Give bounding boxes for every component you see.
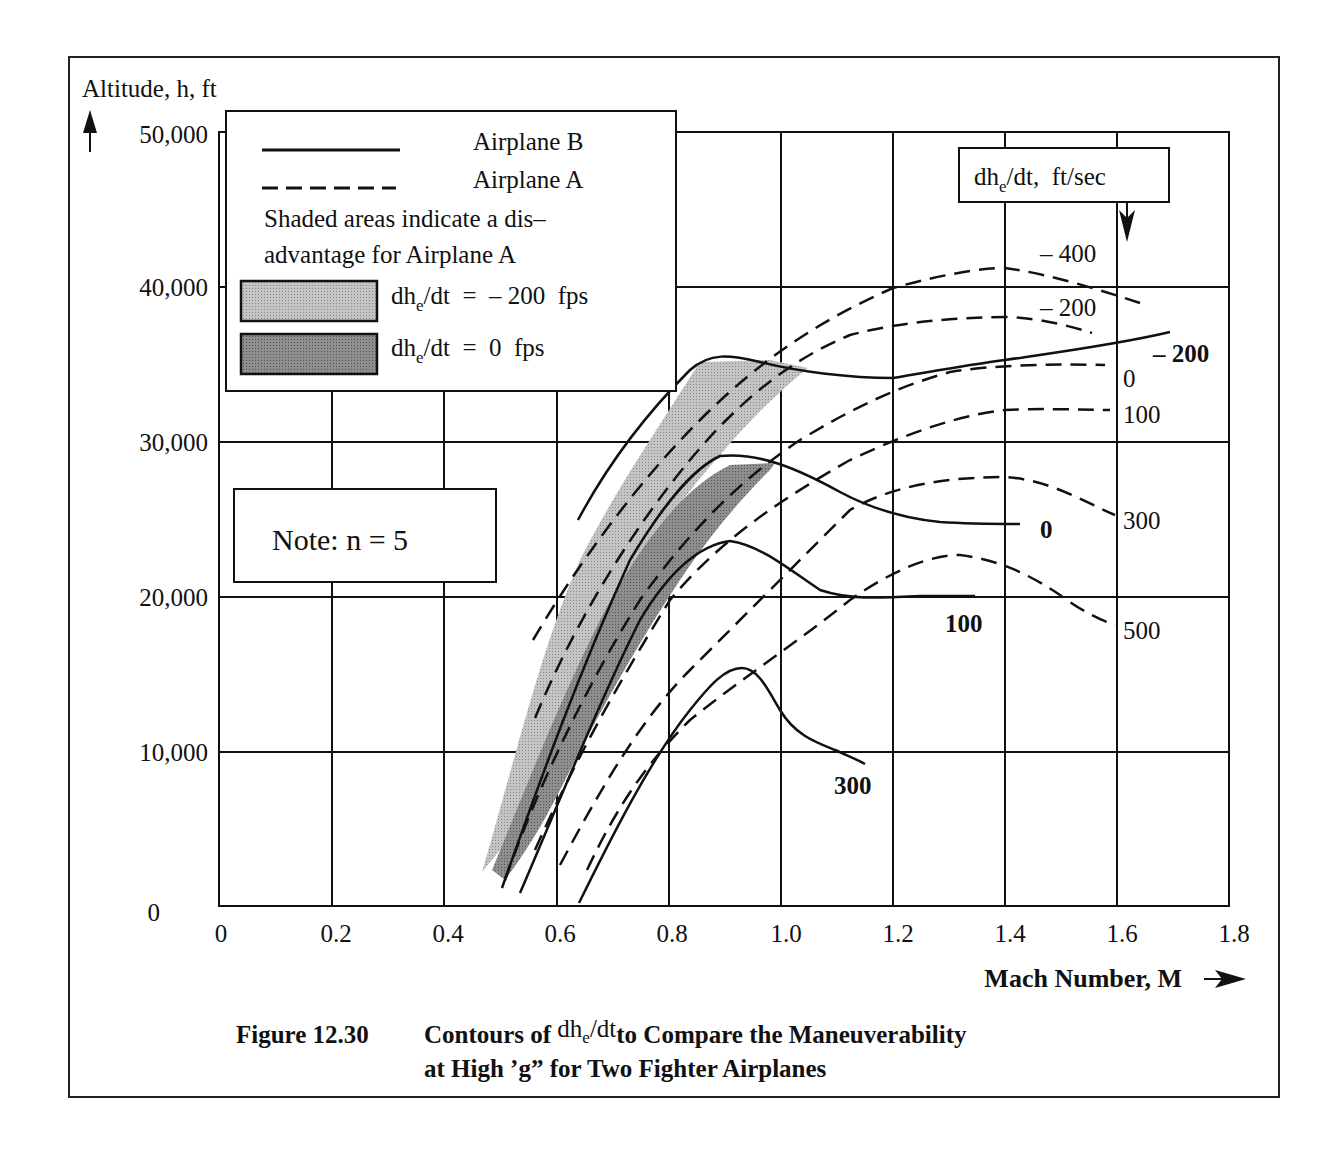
y-tick: 40,000 <box>139 274 208 301</box>
x-tick-labels: 0 0.2 0.4 0.6 0.8 1.0 1.2 1.4 1.6 1.8 <box>215 920 1250 947</box>
legend-label-airplane-a: Airplane A <box>473 166 583 193</box>
b-curve-300 <box>579 668 865 903</box>
y-axis-arrow-icon <box>83 110 97 152</box>
caption-line2: at High ’g” for Two Fighter Airplanes <box>424 1055 827 1082</box>
x-tick: 1.0 <box>770 920 801 947</box>
note-text: Note: n = 5 <box>272 523 408 556</box>
y-tick: 50,000 <box>139 121 208 148</box>
caption-line1: Contours of dhe/dtto Compare the Maneuve… <box>424 1015 967 1048</box>
x-tick: 0 <box>215 920 228 947</box>
y-tick-labels: 0 10,000 20,000 30,000 40,000 50,000 <box>139 121 208 926</box>
y-axis-label: Altitude, h, ft <box>82 75 217 102</box>
y-tick: 20,000 <box>139 584 208 611</box>
contour-label: – 400 <box>1039 240 1096 267</box>
note-box: Note: n = 5 <box>234 489 496 582</box>
a-curve-500 <box>587 555 1115 870</box>
y-tick: 10,000 <box>139 739 208 766</box>
legend-dark-shade-swatch <box>241 334 377 374</box>
contour-label: 0 <box>1040 516 1053 543</box>
x-tick: 0.6 <box>544 920 575 947</box>
contour-label: – 200 <box>1152 340 1209 367</box>
y-tick: 0 <box>148 899 161 926</box>
y-tick: 30,000 <box>139 429 208 456</box>
x-tick: 0.2 <box>320 920 351 947</box>
contour-label: 500 <box>1123 617 1161 644</box>
contour-label: 0 <box>1123 365 1136 392</box>
legend-note-line1: Shaded areas indicate a dis– <box>264 205 546 232</box>
x-tick: 1.6 <box>1106 920 1137 947</box>
x-tick: 1.4 <box>994 920 1026 947</box>
x-axis-label: Mach Number, M <box>984 964 1182 993</box>
contour-label: 100 <box>1123 401 1161 428</box>
x-tick: 0.8 <box>656 920 687 947</box>
legend-label-airplane-b: Airplane B <box>473 128 583 155</box>
chart: Altitude, h, ft 0 10,000 20,000 30,000 4… <box>0 0 1344 1152</box>
contour-label: 300 <box>834 772 872 799</box>
units-box: dhe/dt, ft/sec <box>959 148 1169 202</box>
contour-label: 300 <box>1123 507 1161 534</box>
contour-label: 100 <box>945 610 983 637</box>
legend-note-line2: advantage for Airplane A <box>264 241 516 268</box>
x-axis-arrow-icon <box>1204 970 1246 988</box>
legend-light-shade-swatch <box>241 281 377 321</box>
x-tick: 1.8 <box>1218 920 1249 947</box>
figure-caption: Figure 12.30 Contours of dhe/dtto Compar… <box>236 1015 967 1082</box>
figure-number: Figure 12.30 <box>236 1021 369 1048</box>
x-tick: 0.4 <box>432 920 464 947</box>
contour-label: – 200 <box>1039 294 1096 321</box>
x-tick: 1.2 <box>882 920 913 947</box>
units-arrow-icon <box>1119 202 1135 242</box>
legend: Airplane B Airplane A Shaded areas indic… <box>226 111 676 391</box>
